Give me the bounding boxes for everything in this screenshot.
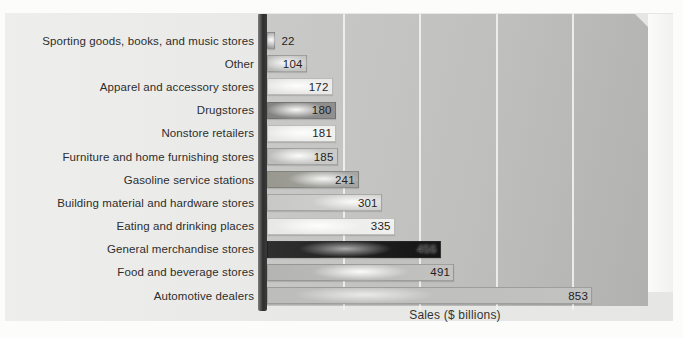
bar-track: 22 bbox=[267, 32, 683, 49]
bar-track: 172 bbox=[267, 78, 683, 95]
bar bbox=[267, 32, 275, 49]
bar-track: 456 bbox=[267, 241, 683, 258]
bar-track: 241 bbox=[267, 171, 683, 188]
category-label: Apparel and accessory stores bbox=[0, 81, 256, 93]
chart-row: Building material and hardware stores301 bbox=[0, 191, 683, 214]
chart-row: Food and beverage stores491 bbox=[0, 261, 683, 284]
x-axis-label: Sales ($ billions) bbox=[262, 308, 648, 322]
value-label: 180 bbox=[312, 104, 332, 116]
figure-canvas: Sporting goods, books, and music stores2… bbox=[0, 0, 683, 338]
category-label: General merchandise stores bbox=[0, 243, 256, 255]
chart-row: Furniture and home furnishing stores185 bbox=[0, 145, 683, 168]
value-label: 185 bbox=[314, 151, 334, 163]
value-label: 491 bbox=[430, 266, 450, 278]
category-label: Drugstores bbox=[0, 104, 256, 116]
value-label: 853 bbox=[568, 290, 588, 302]
bar bbox=[267, 264, 454, 281]
chart-row: Gasoline service stations241 bbox=[0, 168, 683, 191]
value-label: 335 bbox=[371, 220, 391, 232]
chart-row: Apparel and accessory stores172 bbox=[0, 75, 683, 98]
chart-row: General merchandise stores456 bbox=[0, 238, 683, 261]
category-label: Eating and drinking places bbox=[0, 220, 256, 232]
bar-track: 853 bbox=[267, 287, 683, 304]
bar bbox=[267, 287, 592, 304]
category-label: Food and beverage stores bbox=[0, 266, 256, 278]
value-label: 241 bbox=[335, 174, 355, 186]
category-label: Gasoline service stations bbox=[0, 174, 256, 186]
category-label: Furniture and home furnishing stores bbox=[0, 151, 256, 163]
bar-track: 180 bbox=[267, 102, 683, 119]
category-label: Sporting goods, books, and music stores bbox=[0, 35, 256, 47]
chart-row: Other104 bbox=[0, 52, 683, 75]
category-label: Other bbox=[0, 58, 256, 70]
bar-track: 185 bbox=[267, 148, 683, 165]
bar-track: 181 bbox=[267, 125, 683, 142]
bar-track: 104 bbox=[267, 55, 683, 72]
value-label: 104 bbox=[283, 58, 303, 70]
chart-row: Drugstores180 bbox=[0, 99, 683, 122]
bar bbox=[267, 241, 441, 258]
value-label: 181 bbox=[312, 127, 332, 139]
bar-track: 335 bbox=[267, 218, 683, 235]
value-label: 172 bbox=[309, 81, 329, 93]
bar-track: 301 bbox=[267, 194, 683, 211]
category-label: Nonstore retailers bbox=[0, 127, 256, 139]
chart-row: Eating and drinking places335 bbox=[0, 215, 683, 238]
chart-row: Nonstore retailers181 bbox=[0, 122, 683, 145]
value-label: 22 bbox=[281, 35, 294, 47]
chart-row: Sporting goods, books, and music stores2… bbox=[0, 29, 683, 52]
category-label: Building material and hardware stores bbox=[0, 197, 256, 209]
chart-rows: Sporting goods, books, and music stores2… bbox=[0, 29, 683, 307]
value-label: 301 bbox=[358, 197, 378, 209]
chart-row: Automotive dealers853 bbox=[0, 284, 683, 307]
category-label: Automotive dealers bbox=[0, 290, 256, 302]
value-label: 456 bbox=[417, 243, 437, 255]
bar-track: 491 bbox=[267, 264, 683, 281]
